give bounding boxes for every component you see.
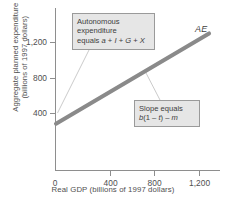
callout-autonomous-line3: equals a + I + G + X — [77, 36, 150, 45]
callout-autonomous-equals: equals — [77, 36, 102, 45]
callout-autonomous-expenditure: Autonomous expenditure equals a + I + G … — [72, 13, 155, 50]
callout-slope-open: (1 – — [143, 113, 158, 122]
chart-figure: Aggregate planned expenditure (billions … — [0, 0, 226, 204]
callout-slope-line1: Slope equals — [139, 104, 195, 113]
leader-line-autonomous — [58, 48, 91, 113]
x-axis-label: Real GDP (billions of 1997 dollars) — [0, 185, 226, 194]
callout-slope-var-m: m — [172, 113, 178, 122]
callout-autonomous-line1: Autonomous — [77, 17, 150, 26]
callout-slope-line2: b(1 – t) – m — [139, 113, 195, 122]
callout-slope: Slope equals b(1 – t) – m — [134, 100, 200, 127]
callout-autonomous-line2: expenditure — [77, 26, 150, 35]
ae-series-label: AE — [195, 24, 208, 34]
callout-autonomous-plus-3: + — [131, 36, 140, 45]
callout-autonomous-var-X: X — [140, 36, 145, 45]
leader-line-slope — [145, 71, 160, 100]
callout-slope-close: ) – — [161, 113, 172, 122]
callout-autonomous-plus-2: + — [117, 36, 126, 45]
